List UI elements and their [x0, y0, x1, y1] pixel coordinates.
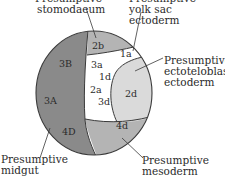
cell-4D: 4D — [62, 126, 76, 137]
cell-1a: 1a — [120, 48, 132, 59]
leader-mesoderm — [122, 138, 143, 158]
cell-3A: 3A — [44, 95, 57, 106]
cell-2b: 2b — [92, 40, 104, 51]
label-yolk-sac-ectoderm: Presumptive yolk sac ectoderm — [128, 0, 199, 26]
cell-1d: 1d — [99, 71, 111, 82]
label-midgut: Presumptive midgut — [1, 153, 71, 176]
label-mesoderm: Presumptive mesoderm — [142, 154, 212, 177]
cell-2a: 2a — [90, 84, 102, 95]
label-ectoteloblast-ectoderm: Presumptive ectoteloblast ectoderm — [164, 54, 225, 88]
cell-3d: 3d — [98, 96, 110, 107]
fate-map-diagram: 2b 1a 3B 3a 1d 2a 3d 3A 2d 4d 4D Presump… — [0, 0, 225, 183]
cell-4d: 4d — [116, 120, 128, 131]
cell-3B: 3B — [59, 58, 72, 69]
label-stomodaeum: Presumptive stomodaeum — [35, 0, 105, 15]
cell-2d: 2d — [125, 88, 137, 99]
cell-3a: 3a — [91, 59, 103, 70]
